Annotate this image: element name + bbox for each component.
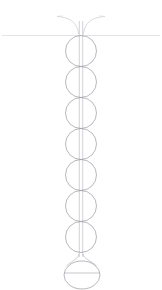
bead-circle: [66, 67, 97, 98]
bead-circle: [66, 222, 97, 253]
bulb-body: [64, 261, 100, 289]
bulb-neck-right: [83, 254, 96, 266]
bead-chain-group: [66, 36, 97, 253]
bulb-neck-left: [67, 254, 79, 266]
funnel-right-wall: [83, 16, 105, 34]
funnel-right-rim: [99, 16, 105, 17]
bead-circle: [66, 160, 97, 191]
bead-circle: [66, 98, 97, 129]
funnel-group: [57, 16, 105, 34]
funnel-left-rim: [57, 16, 63, 17]
funnel-left-wall: [57, 16, 79, 34]
bead-circle: [66, 36, 97, 67]
diagram-canvas: [0, 0, 162, 290]
bead-circle: [66, 129, 97, 160]
terminal-bulb-group: [64, 254, 100, 289]
bead-circle: [66, 191, 97, 222]
diagram-svg: [0, 0, 162, 290]
